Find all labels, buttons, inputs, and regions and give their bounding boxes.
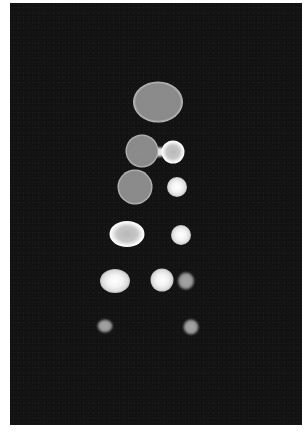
spot: [171, 225, 191, 245]
spot: [178, 273, 194, 290]
spot: [118, 170, 153, 205]
spot: [151, 269, 174, 292]
spot: [167, 177, 187, 197]
spot: [100, 269, 130, 293]
spot: [162, 141, 185, 164]
image-panel: [10, 3, 302, 425]
spot: [98, 320, 113, 333]
spot: [184, 320, 199, 335]
spot: [110, 221, 145, 247]
spot: [133, 82, 183, 123]
spot: [126, 135, 159, 168]
